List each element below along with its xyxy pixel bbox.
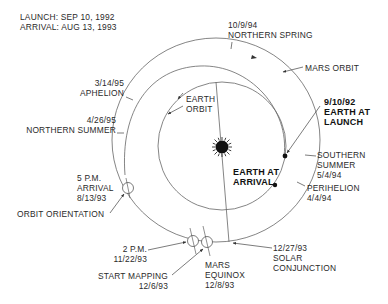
perihelion-label: PERIHELION <box>307 183 360 193</box>
solar-conjunction-date: 12/27/93 <box>273 243 307 253</box>
earth-orbit-line2: ORBIT <box>186 104 213 114</box>
earth-launch-date: 9/10/92 <box>324 97 355 108</box>
aphelion-date: 3/14/95 <box>95 78 124 88</box>
earth-arrival-line1: EARTH AT <box>233 167 279 178</box>
arrival-time: 5 P.M. <box>77 173 101 183</box>
mars-orbit <box>112 38 320 242</box>
mapping-pointer <box>172 249 203 275</box>
start-mapping-date: 12/6/93 <box>139 281 168 291</box>
mars-equinox-line2: EQUINOX <box>205 270 245 280</box>
mars-orbit-arrow <box>251 55 257 59</box>
earth-launch-line1: EARTH AT <box>324 107 370 118</box>
two-pm-pointer <box>148 242 186 250</box>
sun-icon <box>212 137 232 157</box>
mars-equinox-date: 12/8/93 <box>205 280 234 290</box>
aphelion-label: APHELION <box>80 88 124 98</box>
northern-summer-label: NORTHERN SUMMER <box>26 125 116 135</box>
earth-orbit-pointer-2 <box>168 106 183 114</box>
arrival-date: 8/13/93 <box>77 193 106 203</box>
northern-spring-label: NORTHERN SPRING <box>228 30 313 40</box>
two-pm-time: 2 P.M. <box>123 244 147 254</box>
solar-conjunction-line2: CONJUNCTION <box>273 263 336 273</box>
arrival-date-label: ARRIVAL: AUG 13, 1993 <box>20 22 117 32</box>
tick-southern-summer <box>305 155 316 156</box>
southern-summer-line1: SOUTHERN <box>317 150 366 160</box>
earth-launch-line2: LAUNCH <box>324 117 363 128</box>
southern-summer-date: 5/4/94 <box>317 170 342 180</box>
earth-at-launch-dot <box>283 154 288 159</box>
southern-summer-line2: SUMMER <box>317 160 355 170</box>
two-pm-marker-icon <box>188 228 199 254</box>
tick-aphelion <box>126 97 133 100</box>
solar-conjunction-line1: SOLAR <box>273 253 302 263</box>
tick-northern-spring <box>231 42 232 49</box>
conjunction-pointer <box>233 243 272 248</box>
tick-perihelion <box>297 182 305 186</box>
transfer-orbit <box>124 66 284 175</box>
launch-date-label: LAUNCH: SEP 10, 1992 <box>20 12 115 22</box>
perihelion-date: 4/4/94 <box>307 193 332 203</box>
northern-spring-date: 10/9/94 <box>228 20 257 30</box>
conjunction-line <box>216 82 229 242</box>
mars-orbit-label: MARS ORBIT <box>305 63 359 73</box>
orbit-orientation-label: ORBIT ORIENTATION <box>17 209 104 219</box>
northern-summer-date: 4/26/95 <box>87 115 116 125</box>
orientation-pointer <box>110 194 124 213</box>
two-pm-date: 11/22/93 <box>113 254 147 264</box>
earth-orbit-line1: EARTH <box>186 94 215 104</box>
arrival-label: ARRIVAL <box>77 183 114 193</box>
launch-pointer <box>287 106 320 153</box>
mars-equinox-line1: MARS <box>205 260 230 270</box>
mapping-marker-icon <box>202 226 213 256</box>
earth-arrival-line2: ARRIVAL <box>233 177 274 188</box>
start-mapping-label: START MAPPING <box>98 271 168 281</box>
